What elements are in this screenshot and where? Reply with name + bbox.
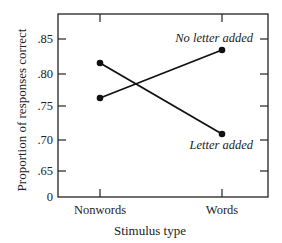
y-tick-label: .85 — [37, 32, 53, 46]
series-label-no-letter-added: No letter added — [174, 31, 254, 45]
y-axis-ticks-left — [58, 39, 66, 171]
data-point — [97, 60, 104, 67]
y-tick-label: .65 — [37, 164, 53, 178]
y-axis-ticks-right — [260, 39, 268, 171]
x-axis-title: Stimulus type — [114, 223, 186, 238]
data-point — [97, 95, 104, 102]
data-point — [219, 131, 226, 138]
y-tick-label: .70 — [37, 133, 53, 147]
y-tick-label: 0 — [47, 190, 53, 204]
y-tick-label: .80 — [37, 67, 53, 81]
series-letter-added — [97, 60, 226, 138]
x-tick-label: Words — [206, 203, 238, 217]
series-label-letter-added: Letter added — [188, 138, 253, 152]
data-point — [219, 47, 226, 54]
y-tick-label: .75 — [37, 99, 53, 113]
series-no-letter-added — [97, 47, 226, 102]
chart: .85 .80 .75 .70 .65 0 Nonwords Words Sti… — [0, 0, 282, 243]
x-tick-label: Nonwords — [74, 203, 126, 217]
y-axis-title: Proportion of responses correct — [14, 28, 29, 191]
